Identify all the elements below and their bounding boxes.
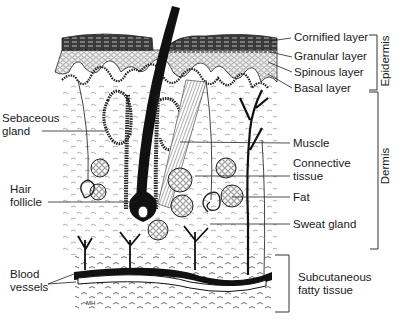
label-dermis: Dermis <box>379 146 391 186</box>
cornified-layer-right <box>165 34 277 50</box>
label-sebaceous-gland-1: Sebaceous <box>2 112 60 125</box>
epidermis-bracket <box>369 35 377 90</box>
label-connective-tissue-1: Connective <box>293 157 351 170</box>
label-muscle: Muscle <box>293 137 329 150</box>
label-granular-layer: Granular layer <box>294 50 367 63</box>
label-hair-follicle-1: Hair <box>10 183 31 196</box>
label-subcutaneous-1: Subcutaneous <box>298 271 372 284</box>
label-spinous-layer: Spinous layer <box>294 66 364 79</box>
label-connective-tissue-2: tissue <box>293 170 323 183</box>
label-fat: Fat <box>293 191 310 204</box>
label-basal-layer: Basal layer <box>294 82 351 95</box>
fat-cluster <box>168 168 192 192</box>
label-blood-vessels-2: vessels <box>10 281 48 294</box>
subcutaneous-bracket <box>275 255 289 312</box>
label-sweat-gland: Sweat gland <box>293 218 356 231</box>
cornified-layer-left <box>62 34 153 50</box>
label-subcutaneous-2: fatty tissue <box>298 284 353 297</box>
label-sebaceous-gland-2: gland <box>2 125 30 138</box>
dermis-bracket <box>369 92 378 249</box>
label-blood-vessels-1: Blood <box>10 268 39 281</box>
artist-signature: MH <box>86 300 95 306</box>
label-epidermis: Epidermis <box>379 31 391 91</box>
label-cornified-layer: Cornified layer <box>294 31 368 44</box>
label-hair-follicle-2: follicle <box>10 196 42 209</box>
